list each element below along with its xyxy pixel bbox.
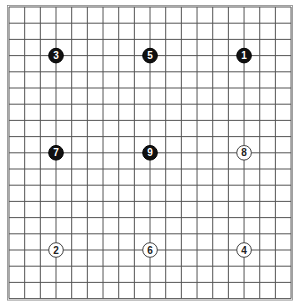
stone-black-7[interactable]: 7 (49, 146, 64, 161)
move-number: 8 (241, 147, 247, 158)
move-number: 9 (147, 147, 153, 158)
stone-black-5[interactable]: 5 (143, 48, 158, 63)
move-number: 5 (147, 50, 153, 61)
stone-black-1[interactable]: 1 (237, 48, 252, 63)
move-number: 3 (53, 50, 59, 61)
stone-black-3[interactable]: 3 (49, 48, 64, 63)
move-number: 6 (147, 245, 153, 256)
move-number: 2 (53, 245, 59, 256)
stone-black-9[interactable]: 9 (143, 146, 158, 161)
move-number: 4 (241, 245, 247, 256)
stone-white-4[interactable]: 4 (237, 243, 252, 258)
stone-white-2[interactable]: 2 (49, 243, 64, 258)
stone-white-6[interactable]: 6 (143, 243, 158, 258)
move-number: 1 (241, 50, 247, 61)
stone-white-8[interactable]: 8 (237, 146, 252, 161)
go-board[interactable]: 123456789 (0, 0, 298, 308)
move-number: 7 (53, 147, 59, 158)
